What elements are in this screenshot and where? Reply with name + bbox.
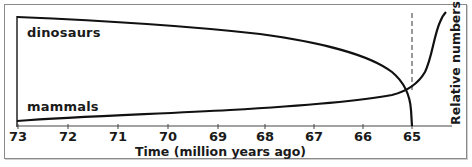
- x-tick-72: 72: [59, 129, 77, 144]
- mammals-label: mammals: [27, 99, 99, 114]
- x-tick-70: 70: [159, 129, 177, 144]
- x-tick-68: 68: [256, 129, 274, 144]
- x-tick-73: 73: [9, 129, 27, 144]
- dinosaurs-label: dinosaurs: [27, 25, 101, 40]
- x-axis-title: Time (million years ago): [135, 144, 306, 159]
- x-tick-65: 65: [403, 129, 421, 144]
- x-tick-66: 66: [354, 129, 372, 144]
- x-tick-67: 67: [305, 129, 323, 144]
- x-tick-69: 69: [209, 129, 227, 144]
- x-tick-71: 71: [109, 129, 127, 144]
- y-axis-title: Relative numbers: [448, 1, 463, 125]
